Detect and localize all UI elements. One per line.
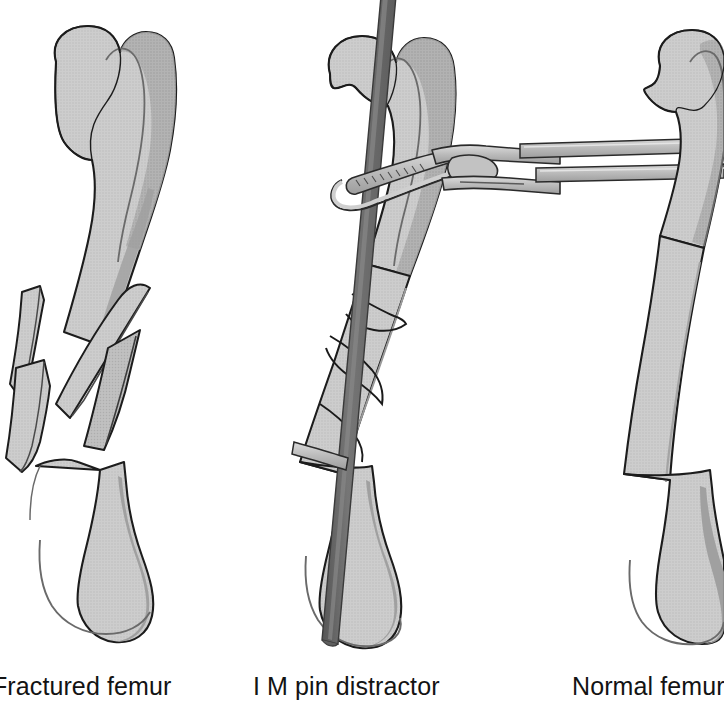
femur-illustration-svg [0, 0, 724, 715]
figure-canvas: Fractured femur I M pin distractor Norma… [0, 0, 724, 715]
